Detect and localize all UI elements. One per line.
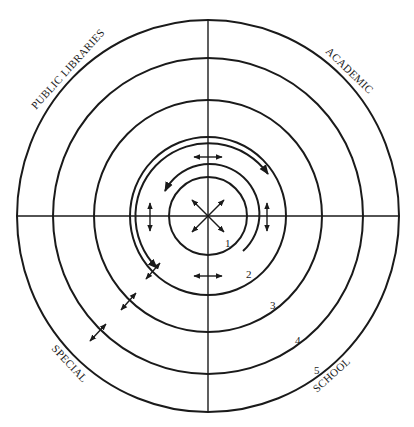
ring-number-3: 3 [270,299,276,311]
concentric-library-diagram: 1 2 3 4 5 PUBLIC LIBRARIES ACADEMIC SPEC… [0,0,414,427]
ring-number-5: 5 [314,364,320,376]
radial-arrow-ring3-icon [121,293,136,310]
radial-double-arrows [90,263,160,341]
label-special: SPECIAL [50,342,91,384]
label-public-libraries: PUBLIC LIBRARIES [29,26,107,111]
ring-number-4: 4 [295,334,301,346]
label-academic: ACADEMIC [324,45,376,96]
ring-numbers: 1 2 3 4 5 [225,237,320,376]
ring-number-1: 1 [225,237,231,249]
outer-circular-arrow-icon [135,143,268,268]
ring-number-2: 2 [246,268,252,280]
circular-arrows [135,143,268,268]
